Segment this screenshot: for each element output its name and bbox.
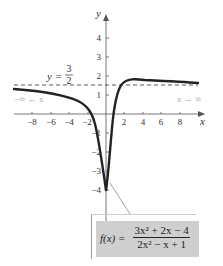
formula-fraction: 3x² + 2x − 4 2x² − x + 1 <box>133 224 189 251</box>
leader-line <box>110 183 130 214</box>
y-tick-label: 4 <box>97 33 102 43</box>
formula-lhs: f(x) = <box>100 232 125 244</box>
x-tick-label: −8 <box>27 117 37 127</box>
y-tick-label: −4 <box>91 185 101 195</box>
x-tick-label: 4 <box>141 117 146 127</box>
y-tick-label: 2 <box>97 71 102 81</box>
y-tick-label: 3 <box>97 52 102 62</box>
right-limit-annotation: x → ∞ <box>177 94 201 104</box>
y-tick-label: −3 <box>91 166 101 176</box>
x-tick-label: 8 <box>178 117 183 127</box>
x-tick-label: −4 <box>64 117 74 127</box>
svg-text:y =: y = <box>46 70 62 82</box>
y-tick-label: 1 <box>97 90 102 100</box>
x-tick-label: 2 <box>122 117 127 127</box>
x-tick-label: 6 <box>159 117 164 127</box>
x-tick-label: −2 <box>82 117 92 127</box>
svg-text:3: 3 <box>67 63 72 74</box>
formula-numerator: 3x² + 2x − 4 <box>133 224 189 238</box>
x-tick-label: −6 <box>46 117 56 127</box>
left-limit-annotation: −∞ ← x <box>14 94 44 104</box>
x-axis-label: x <box>199 115 205 127</box>
y-axis-label: y <box>95 7 101 19</box>
formula: f(x) = 3x² + 2x − 4 2x² − x + 1 <box>100 224 190 251</box>
formula-denominator: 2x² − x + 1 <box>137 238 186 251</box>
y-axis-arrow-icon <box>103 14 109 21</box>
asymptote-label: y = 3 2 <box>46 63 73 86</box>
svg-text:2: 2 <box>67 75 72 86</box>
